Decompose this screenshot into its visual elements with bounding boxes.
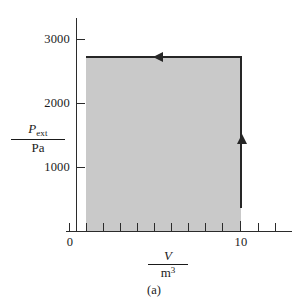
x-tick-6 bbox=[171, 223, 172, 232]
y-axis-title: Pext Pa bbox=[10, 122, 66, 155]
x-axis-unit: m3 bbox=[147, 265, 189, 280]
x-tick-12 bbox=[275, 223, 276, 232]
y-tick-label-2000: 2000 bbox=[24, 97, 70, 110]
x-tick-9 bbox=[222, 223, 223, 232]
x-axis-unit-exponent: 3 bbox=[171, 265, 176, 275]
y-tick-1000 bbox=[77, 167, 85, 168]
x-axis-title: V m3 bbox=[147, 249, 189, 280]
x-tick-8 bbox=[205, 223, 206, 232]
x-tick-label-0: 0 bbox=[55, 236, 85, 249]
x-tick-2 bbox=[103, 223, 104, 232]
y-axis-unit: Pa bbox=[10, 140, 66, 155]
x-tick-11 bbox=[258, 223, 259, 232]
x-tick-10 bbox=[240, 221, 241, 232]
pv-diagram-figure: 3000 2000 1000 0 10 Pext Pa V m3 (a) bbox=[0, 0, 308, 306]
x-tick-1 bbox=[86, 223, 87, 232]
isochoric-pressurization-path bbox=[240, 56, 242, 208]
figure-caption: (a) bbox=[0, 283, 308, 298]
x-tick-0 bbox=[69, 223, 70, 232]
y-tick-label-1000: 1000 bbox=[24, 161, 70, 174]
y-axis-title-numerator: Pext bbox=[10, 122, 66, 139]
y-axis-symbol: P bbox=[28, 121, 36, 136]
x-tick-4 bbox=[137, 223, 138, 232]
y-tick-3000 bbox=[77, 39, 85, 40]
y-axis-subscript: ext bbox=[36, 128, 48, 138]
shaded-work-area bbox=[86, 57, 241, 231]
left-arrowhead-icon bbox=[153, 52, 163, 62]
y-tick-2000 bbox=[77, 103, 85, 104]
y-tick-label-3000: 3000 bbox=[24, 33, 70, 46]
x-tick-7 bbox=[188, 223, 189, 232]
x-tick-5 bbox=[154, 223, 155, 232]
x-axis-unit-base: m bbox=[161, 265, 171, 280]
x-axis-symbol: V bbox=[147, 249, 189, 264]
x-tick-3 bbox=[120, 223, 121, 232]
isobaric-compression-path bbox=[86, 56, 242, 58]
x-tick-label-10: 10 bbox=[226, 236, 256, 249]
up-arrowhead-icon bbox=[237, 134, 247, 144]
y-axis-line bbox=[76, 18, 77, 232]
